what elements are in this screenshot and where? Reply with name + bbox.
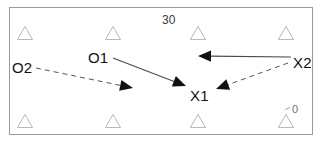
defender-triangle-1: [17, 27, 32, 40]
route-x2-to-x1-arrowhead: [216, 79, 230, 90]
player-label-x1: X1: [190, 88, 209, 103]
defender-triangle-3: [190, 27, 205, 40]
route-x2-sweep-left-shaft: [209, 56, 291, 57]
route-x2-sweep-left-arrowhead: [198, 51, 211, 62]
route-o1-to-x1-shaft: [113, 58, 176, 82]
play-diagram-canvas: O2O1X1X2300: [0, 0, 323, 146]
route-x2-to-x1-shaft: [226, 63, 288, 85]
route-o2-run-shaft: [36, 68, 123, 86]
yard-0: 0: [292, 104, 298, 115]
player-label-x2: X2: [293, 55, 312, 70]
defender-group: [17, 27, 293, 128]
route-o1-to-x1-arrowhead: [172, 76, 186, 86]
defender-triangle-2: [105, 27, 120, 40]
defender-triangle-4: [278, 27, 293, 40]
route-group: [36, 51, 291, 91]
player-label-o2: O2: [12, 60, 32, 75]
defender-triangle-8: [278, 115, 293, 128]
defender-triangle-7: [190, 115, 205, 128]
route-o2-run-arrowhead: [119, 80, 133, 91]
player-label-o1: O1: [88, 50, 108, 65]
defender-triangle-5: [17, 115, 32, 128]
yard-30: 30: [162, 14, 175, 26]
defender-triangle-6: [105, 115, 120, 128]
